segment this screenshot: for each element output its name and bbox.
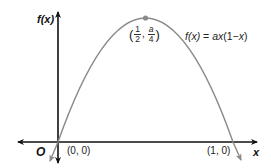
vertex-open-paren: (: [129, 28, 133, 41]
x-axis-label: x: [253, 147, 259, 158]
origin-point-label: (0, 0): [67, 146, 90, 156]
function-equation: f(x) = ax(1−x): [185, 31, 247, 42]
vertex-close-paren: ): [156, 28, 160, 41]
vertex-label: ( 1 2 , a 4 ): [129, 25, 160, 43]
vertex-dot: [143, 15, 148, 20]
y-axis-label: f(x): [37, 14, 54, 25]
vertex-y-denominator: 4: [148, 35, 155, 44]
vertex-x-fraction: 1 2: [134, 25, 141, 43]
equation-lhs: f(x): [185, 30, 200, 42]
vertex-x-denominator: 2: [134, 35, 141, 44]
parabola-right-arrow-icon: [233, 142, 241, 160]
equation-paren-close: ): [244, 30, 248, 42]
equation-equals: =: [203, 30, 209, 42]
vertex-separator: ,: [142, 29, 145, 39]
parabola-left-arrow-icon: [50, 142, 58, 161]
equation-paren-open: (1−: [223, 30, 238, 42]
root-point-label: (1, 0): [207, 146, 230, 156]
vertex-y-fraction: a 4: [148, 25, 155, 43]
origin-label: O: [36, 146, 45, 158]
